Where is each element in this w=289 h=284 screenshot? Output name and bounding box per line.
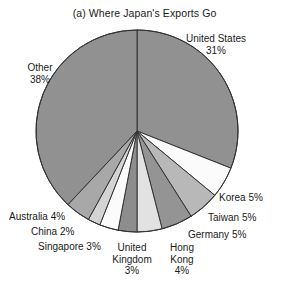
slice-label-other-value: 38%: [8, 74, 72, 86]
slice-label-other: Other 38%: [8, 62, 72, 85]
slice-label-taiwan-text: Taiwan 5%: [208, 212, 256, 224]
slice-label-taiwan: Taiwan 5%: [208, 212, 256, 224]
slice-label-germany-text: Germany 5%: [188, 229, 246, 241]
slice-label-australia: Australia 4%: [9, 211, 65, 223]
slice-label-united-kingdom-l1: United: [104, 242, 160, 254]
slice-label-australia-text: Australia 4%: [9, 211, 65, 223]
slice-label-hong-kong: Hong Kong 4%: [159, 242, 205, 277]
slice-label-united-states-name: United States: [170, 33, 262, 45]
slice-label-korea-text: Korea 5%: [219, 192, 263, 204]
slice-label-united-states: United States 31%: [170, 33, 262, 56]
slice-label-hong-kong-l1: Hong: [159, 242, 205, 254]
slice-label-china: China 2%: [31, 226, 74, 238]
slice-label-united-kingdom: United Kingdom 3%: [104, 242, 160, 277]
pie-chart-figure: (a) Where Japan's Exports Go United Stat…: [0, 0, 289, 284]
pie-slice-group: [36, 30, 238, 232]
slice-label-china-text: China 2%: [31, 226, 74, 238]
slice-label-hong-kong-l2: Kong: [159, 254, 205, 266]
slice-label-hong-kong-value: 4%: [159, 265, 205, 277]
slice-label-singapore: Singapore 3%: [38, 241, 101, 253]
slice-label-united-states-value: 31%: [170, 45, 262, 57]
slice-label-korea: Korea 5%: [219, 192, 263, 204]
slice-label-germany: Germany 5%: [188, 229, 246, 241]
slice-label-singapore-text: Singapore 3%: [38, 241, 101, 253]
slice-label-united-kingdom-value: 3%: [104, 265, 160, 277]
slice-label-other-name: Other: [8, 62, 72, 74]
slice-label-united-kingdom-l2: Kingdom: [104, 254, 160, 266]
